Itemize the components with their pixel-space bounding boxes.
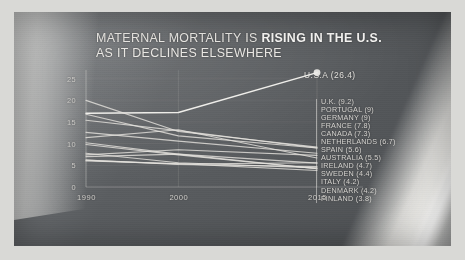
y-axis-tick-label: 15 <box>60 118 76 127</box>
series-marker-u-s-a <box>314 69 321 76</box>
y-axis-tick-label: 25 <box>60 75 76 84</box>
y-axis-tick-label: 20 <box>60 96 76 105</box>
y-axis-tick-label: 0 <box>60 183 76 192</box>
x-axis-tick-label: 2000 <box>169 193 188 202</box>
legend-connector-rule <box>316 99 317 203</box>
x-axis-tick-label: 1990 <box>77 193 96 202</box>
chart-title-emphasis: RISING IN THE U.S. <box>261 31 382 45</box>
chart-panel: MATERNAL MORTALITY IS RISING IN THE U.S.… <box>14 12 451 246</box>
corner-glare-bottom-right <box>341 136 451 246</box>
y-axis-tick-label: 10 <box>60 140 76 149</box>
chart-title: MATERNAL MORTALITY IS RISING IN THE U.S.… <box>96 31 396 60</box>
y-axis-tick-label: 5 <box>60 161 76 170</box>
photograph-of-chart: MATERNAL MORTALITY IS RISING IN THE U.S.… <box>0 0 465 260</box>
